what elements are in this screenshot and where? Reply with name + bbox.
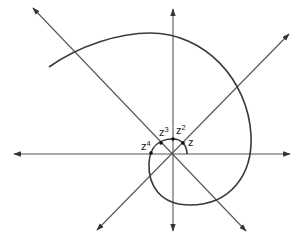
label-z3: z3 bbox=[159, 125, 169, 138]
point-z4 bbox=[149, 151, 153, 155]
point-z2 bbox=[171, 137, 175, 141]
spiral-diagram: z z2 z3 z4 bbox=[0, 0, 299, 242]
point-z bbox=[181, 141, 185, 145]
diagonal-axis-sw-ne bbox=[97, 34, 289, 230]
point-z3 bbox=[159, 141, 163, 145]
label-z4: z4 bbox=[141, 139, 151, 152]
label-z2: z2 bbox=[176, 123, 186, 136]
label-z: z bbox=[188, 136, 194, 148]
spiral-curve bbox=[49, 33, 251, 205]
diagonal-axis-nw-se bbox=[33, 8, 246, 231]
